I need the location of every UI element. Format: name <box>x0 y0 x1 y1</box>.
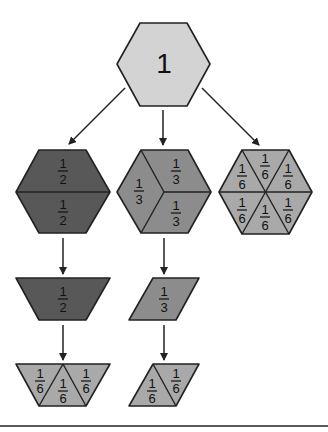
thirds-hexagon: 1 3 1 3 1 3 <box>117 150 211 233</box>
fraction-label: 1 6 <box>260 151 270 182</box>
fraction-label: 1 3 <box>134 176 144 207</box>
svg-text:6: 6 <box>238 177 245 192</box>
svg-text:1: 1 <box>135 176 142 191</box>
svg-text:1: 1 <box>160 284 167 299</box>
trapezoid-of-sixths: 1 6 1 6 1 6 <box>16 364 110 406</box>
sixths-hexagon: 1 6 1 6 1 6 1 6 1 6 1 6 <box>219 150 312 234</box>
third-rhombus: 1 3 <box>129 278 199 320</box>
svg-text:1: 1 <box>238 195 245 210</box>
svg-text:6: 6 <box>284 211 291 226</box>
fraction-label: 1 6 <box>35 366 45 396</box>
fraction-label: 1 3 <box>171 198 181 229</box>
svg-text:1: 1 <box>284 161 291 176</box>
fraction-label: 1 2 <box>58 156 68 187</box>
svg-text:1: 1 <box>172 156 179 171</box>
svg-text:6: 6 <box>261 218 268 233</box>
svg-text:2: 2 <box>59 172 66 187</box>
svg-text:3: 3 <box>160 300 167 315</box>
svg-text:6: 6 <box>238 211 245 226</box>
fraction-label: 1 6 <box>58 376 68 406</box>
svg-text:6: 6 <box>284 177 291 192</box>
arrow-to-sixths <box>202 88 259 145</box>
svg-text:3: 3 <box>172 214 179 229</box>
svg-text:2: 2 <box>59 300 66 315</box>
svg-text:1: 1 <box>148 376 155 391</box>
fraction-label: 1 2 <box>58 284 68 315</box>
fraction-diagram: 1 1 2 1 2 1 3 1 <box>0 0 328 432</box>
svg-text:6: 6 <box>148 391 155 406</box>
svg-text:1: 1 <box>238 161 245 176</box>
svg-text:6: 6 <box>82 381 89 396</box>
root-hexagon: 1 <box>117 23 210 106</box>
svg-text:1: 1 <box>172 366 179 381</box>
svg-text:1: 1 <box>59 156 66 171</box>
fraction-label: 1 6 <box>283 195 293 226</box>
svg-text:3: 3 <box>135 192 142 207</box>
svg-text:6: 6 <box>172 381 179 396</box>
fraction-label: 1 6 <box>260 202 270 233</box>
half-trapezoid: 1 2 <box>16 278 110 320</box>
svg-text:1: 1 <box>59 376 66 391</box>
svg-text:1: 1 <box>36 366 43 381</box>
svg-text:1: 1 <box>261 151 268 166</box>
arrow-to-halves <box>69 88 125 144</box>
svg-text:1: 1 <box>59 197 66 212</box>
svg-text:6: 6 <box>36 381 43 396</box>
svg-text:2: 2 <box>59 213 66 228</box>
svg-text:3: 3 <box>172 172 179 187</box>
fraction-label: 1 6 <box>237 161 247 192</box>
rhombus-of-sixths: 1 6 1 6 <box>129 364 199 406</box>
fraction-label: 1 6 <box>81 366 91 396</box>
svg-text:1: 1 <box>284 195 291 210</box>
fraction-label: 1 6 <box>237 195 247 226</box>
svg-text:1: 1 <box>261 202 268 217</box>
fraction-label: 1 6 <box>171 366 181 396</box>
fraction-label: 1 3 <box>159 284 169 315</box>
svg-text:6: 6 <box>261 167 268 182</box>
svg-text:1: 1 <box>59 284 66 299</box>
svg-text:1: 1 <box>172 198 179 213</box>
fraction-label: 1 3 <box>171 156 181 187</box>
svg-text:6: 6 <box>59 391 66 406</box>
fraction-label: 1 6 <box>283 161 293 192</box>
svg-text:1: 1 <box>82 366 89 381</box>
root-label: 1 <box>156 48 172 79</box>
halves-hexagon: 1 2 1 2 <box>16 150 110 233</box>
fraction-label: 1 6 <box>147 376 157 406</box>
fraction-label: 1 2 <box>58 197 68 228</box>
